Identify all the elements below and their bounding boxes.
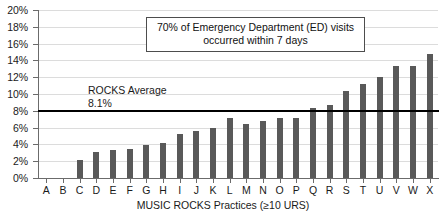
y-tick-label: 12% — [7, 71, 28, 83]
bar-I — [177, 134, 183, 178]
x-tick-label-F: F — [126, 184, 132, 196]
x-tick-mark — [330, 179, 331, 183]
x-tick-mark — [46, 179, 47, 183]
x-tick-label-P: P — [293, 184, 300, 196]
y-tick-label: 10% — [7, 88, 28, 100]
y-tick-label: 16% — [7, 38, 28, 50]
x-tick-mark — [346, 179, 347, 183]
bar-O — [277, 118, 283, 178]
annotation-line-2: occurred within 7 days — [151, 34, 360, 47]
bar-M — [243, 124, 249, 178]
bar-J — [193, 131, 199, 178]
x-tick-label-G: G — [142, 184, 150, 196]
x-tick-label-E: E — [109, 184, 116, 196]
x-tick-mark — [196, 179, 197, 183]
bar-U — [377, 77, 383, 178]
x-tick-label-B: B — [59, 184, 66, 196]
x-tick-label-W: W — [408, 184, 418, 196]
bar-S — [343, 91, 349, 178]
bar-T — [360, 84, 366, 178]
x-tick-mark — [96, 179, 97, 183]
bar-H — [160, 143, 166, 178]
x-tick-mark — [113, 179, 114, 183]
bar-F — [127, 149, 133, 178]
bar-P — [293, 118, 299, 178]
y-tick-label: 0% — [13, 172, 28, 184]
bar-K — [210, 128, 216, 178]
x-tick-mark — [146, 179, 147, 183]
x-tick-label-J: J — [194, 184, 199, 196]
x-tick-label-H: H — [159, 184, 167, 196]
average-label-value: 8.1% — [88, 97, 167, 110]
y-tick-label: 14% — [7, 54, 28, 66]
x-axis-title: MUSIC ROCKS Practices (≥10 URS) — [0, 199, 446, 211]
x-tick-label-D: D — [93, 184, 101, 196]
annotation-line-1: 70% of Emergency Department (ED) visits — [151, 21, 360, 34]
y-axis-labels: 0%2%4%6%8%10%12%14%16%18%20% — [0, 0, 34, 188]
x-tick-mark — [413, 179, 414, 183]
x-tick-label-U: U — [376, 184, 384, 196]
x-tick-label-X: X — [426, 184, 433, 196]
y-tick-label: 2% — [13, 155, 28, 167]
x-tick-label-K: K — [209, 184, 216, 196]
x-tick-mark — [63, 179, 64, 183]
bar-X — [427, 54, 433, 178]
x-tick-mark — [163, 179, 164, 183]
bar-E — [110, 150, 116, 178]
x-tick-mark — [363, 179, 364, 183]
x-tick-mark — [380, 179, 381, 183]
bar-V — [393, 66, 399, 178]
x-tick-label-L: L — [227, 184, 233, 196]
bar-C — [77, 160, 83, 178]
x-tick-label-O: O — [276, 184, 284, 196]
x-tick-mark — [246, 179, 247, 183]
bar-L — [227, 118, 233, 178]
bar-N — [260, 121, 266, 178]
x-tick-mark — [230, 179, 231, 183]
y-tick-label: 6% — [13, 122, 28, 134]
x-tick-mark — [430, 179, 431, 183]
average-reference-label: ROCKS Average 8.1% — [88, 84, 167, 109]
x-axis-line — [38, 178, 439, 179]
x-tick-label-I: I — [178, 184, 181, 196]
x-tick-label-A: A — [43, 184, 50, 196]
x-tick-mark — [396, 179, 397, 183]
y-tick-label: 18% — [7, 21, 28, 33]
bar-Q — [310, 108, 316, 178]
y-tick-label: 20% — [7, 4, 28, 16]
annotation-callout: 70% of Emergency Department (ED) visits … — [146, 17, 365, 52]
x-tick-label-T: T — [360, 184, 366, 196]
bar-R — [327, 105, 333, 178]
x-tick-label-Q: Q — [309, 184, 317, 196]
x-tick-label-C: C — [76, 184, 84, 196]
x-tick-label-R: R — [326, 184, 334, 196]
x-tick-mark — [296, 179, 297, 183]
x-tick-label-N: N — [259, 184, 267, 196]
x-tick-label-S: S — [343, 184, 350, 196]
bar-D — [93, 152, 99, 178]
x-tick-label-M: M — [242, 184, 251, 196]
x-tick-mark — [130, 179, 131, 183]
chart-figure: 0%2%4%6%8%10%12%14%16%18%20% ROCKS Avera… — [0, 0, 446, 219]
x-tick-mark — [180, 179, 181, 183]
average-reference-line — [38, 110, 439, 112]
bar-G — [143, 145, 149, 178]
average-label-title: ROCKS Average — [88, 84, 167, 97]
x-tick-mark — [80, 179, 81, 183]
x-tick-label-V: V — [393, 184, 400, 196]
x-tick-mark — [263, 179, 264, 183]
x-tick-mark — [313, 179, 314, 183]
x-tick-mark — [280, 179, 281, 183]
y-tick-label: 8% — [13, 105, 28, 117]
y-tick-label: 4% — [13, 138, 28, 150]
bar-W — [410, 66, 416, 178]
x-tick-mark — [213, 179, 214, 183]
